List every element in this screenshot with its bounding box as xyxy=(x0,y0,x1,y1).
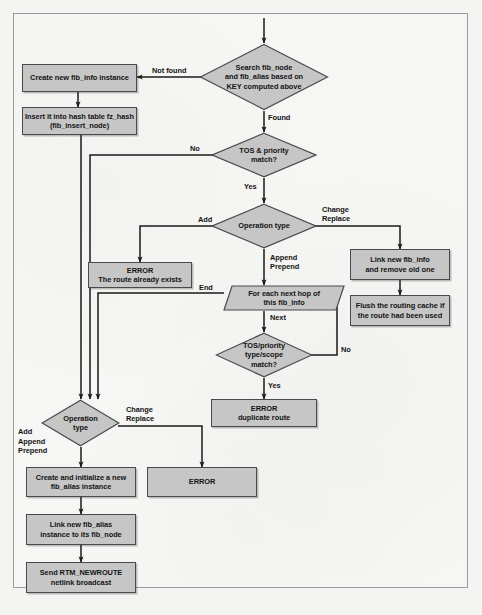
edge-label-found: Found xyxy=(268,113,290,122)
edge-label-next: Next xyxy=(270,313,286,322)
terminal-error-duplicate-route-label: ERROR duplicate route xyxy=(238,404,290,423)
flowchart-canvas: Search fib_node and fib_alias based on K… xyxy=(0,0,482,615)
edge-label-no-lower: No xyxy=(341,345,351,354)
process-flush-routing-cache-label: Flush the routing cache if the route had… xyxy=(356,301,445,320)
process-link-new-fib-info: Link new fib_info and remove old one xyxy=(350,249,450,280)
process-link-fib-alias: Link new fib_alias instance to its fib_n… xyxy=(26,514,136,545)
terminal-error-plain-label: ERROR xyxy=(189,477,215,486)
loop-for-each-next-hop: For each next hop of this fib_info xyxy=(223,285,345,311)
edge-label-add-upper: Add xyxy=(198,215,212,224)
process-create-fib-info: Create new fib_info instance xyxy=(22,64,137,92)
process-create-fib-info-label: Create new fib_info instance xyxy=(30,73,129,82)
process-insert-hash-table-label: Insert it into hash table fz_hash (fib_i… xyxy=(25,112,134,131)
edge-label-not-found: Not found xyxy=(152,66,186,75)
process-send-rtm-newroute-label: Send RTM_NEWROUTE netlink broadcast xyxy=(40,568,123,587)
edge-label-yes-lower: Yes xyxy=(268,381,281,390)
terminal-error-plain: ERROR xyxy=(147,467,257,497)
decision-search-fib-node: Search fib_node and fib_alias based on K… xyxy=(199,43,329,111)
diamond-shape xyxy=(211,203,317,249)
process-insert-hash-table: Insert it into hash table fz_hash (fib_i… xyxy=(22,107,137,135)
process-flush-routing-cache: Flush the routing cache if the route had… xyxy=(350,295,450,326)
process-link-fib-alias-label: Link new fib_alias instance to its fib_n… xyxy=(40,520,121,539)
diamond-shape xyxy=(41,399,120,447)
edge-label-change-replace-upper: Change Replace xyxy=(322,205,350,224)
edge-label-no-upper: No xyxy=(190,144,200,153)
terminal-error-route-exists-label: ERROR The route already exists xyxy=(98,266,181,285)
process-create-fib-alias-label: Create and initialize a new fib_alias in… xyxy=(36,473,127,492)
edge-label-add-append-prepend: Add Append Prepend xyxy=(18,427,47,456)
decision-tos-priority-match: TOS & priority match? xyxy=(211,132,317,178)
diamond-shape xyxy=(199,43,329,111)
edge-label-append-prepend: Append Prepend xyxy=(270,253,299,272)
flowchart-figure: Search fib_node and fib_alias based on K… xyxy=(0,0,482,615)
parallelogram-shape xyxy=(223,285,345,311)
decision-operation-type-upper: Operation type xyxy=(211,203,317,249)
terminal-error-route-exists: ERROR The route already exists xyxy=(88,262,192,288)
diamond-shape xyxy=(211,132,317,178)
diamond-shape xyxy=(215,332,313,378)
edge-label-yes-upper: Yes xyxy=(244,182,257,191)
edge-label-end: End xyxy=(199,283,213,292)
terminal-error-duplicate-route: ERROR duplicate route xyxy=(211,399,317,427)
decision-operation-type-lower: Operation type xyxy=(41,399,120,447)
process-create-fib-alias: Create and initialize a new fib_alias in… xyxy=(26,467,136,497)
process-send-rtm-newroute: Send RTM_NEWROUTE netlink broadcast xyxy=(26,562,136,593)
decision-tos-type-scope-match: TOS/priority type/scope match? xyxy=(215,332,313,378)
edge-label-change-replace-lower: Change Replace xyxy=(126,405,154,424)
process-link-new-fib-info-label: Link new fib_info and remove old one xyxy=(366,255,435,274)
